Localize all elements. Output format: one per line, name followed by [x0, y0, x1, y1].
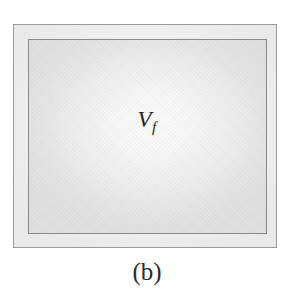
volume-label: Vf — [0, 108, 294, 135]
figure-caption: (b) — [0, 259, 294, 284]
volume-label-base: V — [137, 107, 151, 132]
inner-control-volume-rectangle — [28, 39, 267, 234]
volume-label-subscript: f — [152, 118, 157, 135]
figure-canvas: Vf (b) — [0, 0, 294, 295]
outer-boundary-rectangle — [13, 24, 277, 248]
